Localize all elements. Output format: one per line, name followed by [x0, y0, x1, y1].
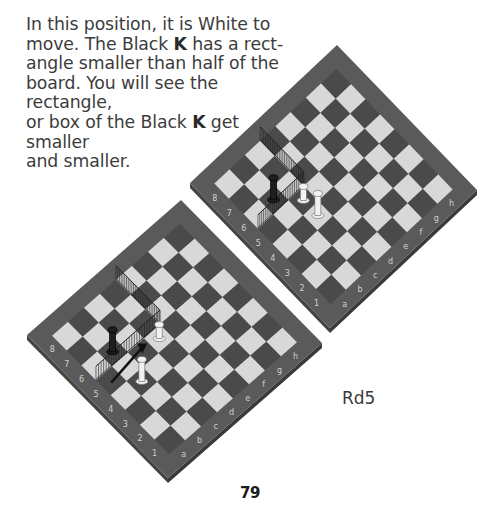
file-label: g	[434, 214, 439, 223]
rank-label: 1	[314, 299, 319, 308]
file-label: b	[197, 436, 202, 445]
file-label: d	[229, 408, 234, 417]
rank-label: 3	[123, 420, 128, 429]
rank-label: 4	[108, 405, 113, 414]
rank-label: 6	[241, 224, 246, 233]
rank-label: 8	[50, 345, 55, 354]
rank-label: 4	[270, 254, 275, 263]
file-label: e	[403, 242, 408, 251]
file-label: a	[342, 300, 347, 309]
rank-label: 8	[212, 194, 217, 203]
rank-label: 5	[256, 239, 261, 248]
file-label: h	[293, 352, 298, 361]
file-label: f	[420, 228, 423, 237]
chess-diagrams: a1b2c3d4e5f6g7h8a1b2c3d4e5f6g7h8	[0, 0, 500, 505]
rank-label: 7	[64, 360, 69, 369]
file-label: a	[181, 450, 186, 459]
rank-label: 2	[137, 434, 142, 443]
rank-label: 1	[152, 449, 157, 458]
file-label: d	[388, 257, 393, 266]
file-label: c	[373, 271, 377, 280]
rank-label: 7	[227, 209, 232, 218]
move-caption: Rd5	[342, 388, 375, 408]
file-label: f	[262, 380, 265, 389]
file-label: e	[245, 394, 250, 403]
rank-label: 5	[94, 390, 99, 399]
rank-label: 2	[299, 284, 304, 293]
page-number: 79	[240, 484, 260, 502]
file-label: g	[277, 366, 282, 375]
file-label: c	[213, 422, 217, 431]
file-label: b	[357, 285, 362, 294]
file-label: h	[449, 199, 454, 208]
rank-label: 6	[79, 375, 84, 384]
rank-label: 3	[285, 269, 290, 278]
